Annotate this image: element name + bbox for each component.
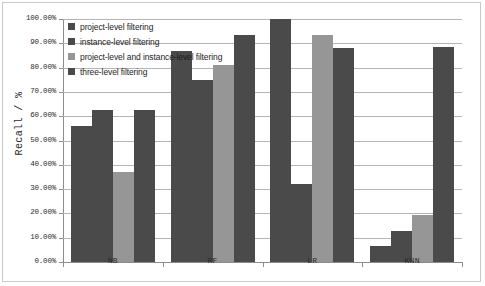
legend-swatch-icon	[68, 23, 75, 30]
y-axis-tick: 50.00%	[0, 136, 56, 146]
x-axis-tick-mark	[163, 262, 164, 267]
legend-item-label: project-level and instance-level filteri…	[80, 52, 222, 62]
y-axis-tick-label: 50.00%	[6, 136, 56, 144]
legend-swatch-icon	[68, 38, 75, 45]
y-axis-tick-label: 40.00%	[6, 160, 56, 168]
y-axis-tick: 90.00%	[0, 38, 56, 48]
y-axis-tick: 80.00%	[0, 63, 56, 73]
x-axis-tick-label: LR	[267, 256, 357, 265]
y-axis-tick-label: 100.00%	[6, 14, 56, 22]
y-axis-tick: 20.00%	[0, 208, 56, 218]
bar	[192, 80, 213, 262]
x-axis-tick-label: KNN	[367, 256, 457, 265]
legend-item-label: project-level filtering	[80, 22, 153, 32]
legend-item: project-level filtering	[68, 20, 222, 33]
y-axis-tick-label: 0.00%	[6, 257, 56, 265]
x-axis-tick-label: NB	[68, 256, 158, 265]
y-axis-tick-label: 60.00%	[6, 111, 56, 119]
chart-legend: project-level filteringinstance-level fi…	[68, 20, 222, 78]
y-axis-tick: 100.00%	[0, 14, 56, 24]
y-axis-tick-label: 90.00%	[6, 38, 56, 46]
x-axis-tick-mark	[462, 262, 463, 267]
y-axis-tick-mark	[59, 213, 63, 214]
x-axis-tick-mark	[362, 262, 363, 267]
bar	[270, 19, 291, 262]
y-axis-tick: 40.00%	[0, 160, 56, 170]
legend-item: three-level filtering	[68, 65, 222, 78]
y-axis-tick-mark	[59, 43, 63, 44]
x-axis-tick-mark	[63, 262, 64, 267]
bar	[433, 47, 454, 262]
y-axis-tick-mark	[59, 141, 63, 142]
y-axis-tick: 10.00%	[0, 233, 56, 243]
bar	[92, 110, 113, 262]
bar	[412, 215, 433, 262]
y-axis-tick: 0.00%	[0, 257, 56, 267]
y-axis-tick-label: 80.00%	[6, 63, 56, 71]
bar	[171, 51, 192, 262]
x-axis-tick-label: RF	[168, 256, 258, 265]
legend-swatch-icon	[68, 53, 75, 60]
y-axis-tick-mark	[59, 19, 63, 20]
bar	[312, 35, 333, 262]
y-axis-tick-mark	[59, 165, 63, 166]
legend-swatch-icon	[68, 68, 75, 75]
legend-item: project-level and instance-level filteri…	[68, 50, 222, 63]
y-axis-tick-mark	[59, 238, 63, 239]
bar	[234, 35, 255, 262]
y-axis-tick-mark	[59, 92, 63, 93]
y-axis-tick-label: 30.00%	[6, 184, 56, 192]
legend-item-label: three-level filtering	[80, 67, 147, 77]
bar	[71, 126, 92, 262]
y-axis-tick-mark	[59, 262, 63, 263]
y-axis-tick-mark	[59, 189, 63, 190]
bar-group	[362, 19, 462, 262]
bar	[113, 172, 134, 262]
y-axis-tick: 70.00%	[0, 87, 56, 97]
legend-item: instance-level filtering	[68, 35, 222, 48]
bar	[134, 110, 155, 262]
x-axis-tick-mark	[263, 262, 264, 267]
bar	[291, 184, 312, 262]
bar-group	[263, 19, 363, 262]
bar-chart: Recall / % 100.00%90.00%80.00%70.00%60.0…	[0, 0, 485, 286]
y-axis-tick-mark	[59, 116, 63, 117]
y-axis-tick-label: 10.00%	[6, 233, 56, 241]
y-axis-tick-label: 70.00%	[6, 87, 56, 95]
y-axis-tick: 60.00%	[0, 111, 56, 121]
bar	[333, 48, 354, 262]
y-axis-tick-label: 20.00%	[6, 208, 56, 216]
bar	[213, 65, 234, 262]
y-axis-tick-mark	[59, 68, 63, 69]
legend-item-label: instance-level filtering	[80, 37, 159, 47]
y-axis-tick: 30.00%	[0, 184, 56, 194]
